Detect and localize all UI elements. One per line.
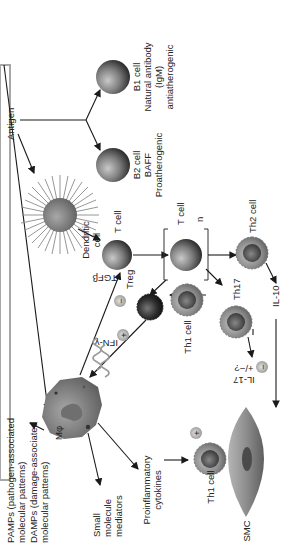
arrow-macrophage-to-proinflammatory <box>98 423 138 469</box>
arrow-antigen-to-b2 <box>86 120 100 150</box>
svg-text:Th1 cell: Th1 cell <box>182 320 193 353</box>
smc-cell: SMC <box>228 407 264 542</box>
svg-text:mediators: mediators <box>113 495 124 537</box>
arrow-antigen-to-dendritic <box>18 134 34 173</box>
il17-label: IL-17 +/−? <box>233 363 255 386</box>
svg-text:T cell: T cell <box>175 202 186 225</box>
th1-cell-lower: Th1 cell <box>194 443 226 504</box>
arrow-tcell-n-to-treg <box>150 280 166 295</box>
svg-text:Treg: Treg <box>124 270 135 289</box>
svg-text:(IgM): (IgM) <box>153 66 164 88</box>
svg-text:molecule: molecule <box>102 499 113 537</box>
svg-text:PAMPs (pathogen-associated: PAMPs (pathogen-associated <box>5 418 16 543</box>
arrow-macrophage-to-tcell <box>80 273 120 375</box>
svg-text:+: + <box>192 430 202 435</box>
svg-text:Proinflammatory: Proinflammatory <box>141 455 152 524</box>
svg-text:molecular patterns): molecular patterns) <box>16 462 27 543</box>
svg-text:BAFF: BAFF <box>142 153 153 177</box>
t-cell-icon <box>102 240 132 270</box>
svg-text:cell: cell <box>91 233 102 247</box>
svg-text:cytokines: cytokines <box>152 470 163 510</box>
t-cell-n-icon <box>170 239 202 271</box>
svg-text:B1 cell: B1 cell <box>131 63 142 92</box>
svg-text:Th17: Th17 <box>231 278 242 300</box>
minus-badge-il10: − <box>256 361 268 373</box>
svg-text:DAMPs (damage-associated: DAMPs (damage-associated <box>28 422 39 543</box>
svg-text:Proatherogenic: Proatherogenic <box>153 133 164 198</box>
svg-text:molecular patterns): molecular patterns) <box>39 462 50 543</box>
treg-cell: Treg <box>124 270 163 320</box>
arrow-antigen-to-b1 <box>86 90 100 120</box>
minus-badge-tgfb: − <box>114 295 126 307</box>
svg-text:Dendritic: Dendritic <box>80 221 91 259</box>
svg-text:B2 cell: B2 cell <box>131 151 142 180</box>
arrow-th17-to-il17 <box>248 337 252 357</box>
svg-text:n: n <box>194 217 205 222</box>
diagram-canvas: PAMPs (pathogen-associated molecular pat… <box>0 0 288 545</box>
svg-text:Natural antibody: Natural antibody <box>142 42 153 111</box>
th1-cell-mid: Th1 cell <box>171 284 203 354</box>
svg-text:antiatherogenic: antiatherogenic <box>164 44 175 109</box>
svg-text:−: − <box>258 364 268 369</box>
svg-text:Th2 cell: Th2 cell <box>247 200 258 233</box>
small-molecule-label: Small molecule mediators <box>91 495 124 537</box>
th2-cell: Th2 cell <box>236 200 268 269</box>
il10-label: IL-10 <box>270 285 281 307</box>
arrow-th2-to-il10 <box>266 263 276 283</box>
plus-badge-ifng: + <box>117 329 129 341</box>
antigen-label: Antigen <box>5 108 16 140</box>
arrow-macrophage-to-small-molecule <box>88 433 100 485</box>
t-cell-n: T cell n <box>164 202 208 280</box>
tgfb-label: TGFβ <box>92 273 117 284</box>
proinflammatory-label: Proinflammatory cytokines <box>141 455 163 524</box>
svg-text:T cell: T cell <box>112 210 123 233</box>
svg-text:+: + <box>119 332 129 337</box>
svg-text:Mφ: Mφ <box>53 426 64 440</box>
svg-text:IL-17: IL-17 <box>233 375 255 386</box>
treg-cell-icon <box>137 294 163 320</box>
svg-text:−: − <box>116 298 126 303</box>
plus-badge-th1: + <box>190 427 202 439</box>
dendritic-cell: Dendritic cell <box>21 175 102 259</box>
pamps-damps-label: PAMPs (pathogen-associated molecular pat… <box>5 418 50 543</box>
b1-cell-icon <box>96 60 130 94</box>
b2-cell-icon <box>96 148 130 182</box>
t-cell: T cell <box>102 210 132 270</box>
svg-text:+/−?: +/−? <box>234 363 253 374</box>
svg-text:Small: Small <box>91 513 102 537</box>
b2-cell: B2 cell BAFF Proatherogenic <box>96 133 164 198</box>
macrophage: Mφ <box>42 377 102 440</box>
b1-cell: B1 cell Natural antibody (IgM) antiather… <box>96 42 175 111</box>
th17-cell: Th17 <box>220 278 252 338</box>
svg-text:Th1 cell: Th1 cell <box>205 470 216 503</box>
svg-text:SMC: SMC <box>241 520 252 541</box>
